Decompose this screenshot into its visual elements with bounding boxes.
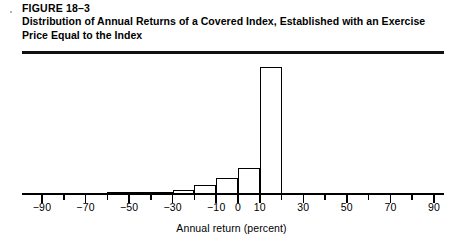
histogram-bar bbox=[216, 178, 238, 193]
x-axis-tick bbox=[107, 195, 109, 200]
x-axis-tick-label: 70 bbox=[384, 201, 396, 213]
histogram-bar bbox=[173, 190, 195, 193]
x-axis-tick bbox=[324, 195, 326, 200]
x-axis-tick-label: 30 bbox=[297, 201, 309, 213]
histogram-plot bbox=[0, 55, 463, 200]
histogram-bar bbox=[107, 192, 129, 194]
x-axis-tick-label: 0 bbox=[235, 201, 241, 213]
page-speck bbox=[10, 11, 12, 13]
histogram-bar bbox=[129, 192, 151, 194]
x-axis-tick-label: −70 bbox=[76, 201, 94, 213]
x-axis-tick-label: −10 bbox=[207, 201, 225, 213]
x-axis-tick-label: 50 bbox=[341, 201, 353, 213]
header-rule bbox=[22, 51, 444, 54]
x-axis-tick bbox=[281, 195, 283, 200]
histogram-bar bbox=[151, 192, 173, 194]
x-axis-title: Annual return (percent) bbox=[0, 222, 463, 234]
histogram-bar bbox=[238, 168, 260, 193]
x-axis-tick bbox=[63, 195, 65, 200]
histogram-bar bbox=[260, 67, 282, 193]
x-axis-tick-label: −30 bbox=[163, 201, 181, 213]
x-axis-tick-label: 10 bbox=[254, 201, 266, 213]
x-axis-tick bbox=[368, 195, 370, 200]
x-axis-tick bbox=[411, 195, 413, 200]
x-axis-tick-label: −90 bbox=[33, 201, 51, 213]
figure-number-label: FIGURE 18–3 bbox=[22, 2, 90, 14]
x-axis-tick-label: 90 bbox=[428, 201, 440, 213]
histogram-bar bbox=[194, 185, 216, 193]
x-axis-tick bbox=[150, 195, 152, 200]
figure-title: Distribution of Annual Returns of a Cove… bbox=[22, 15, 442, 42]
x-axis-tick-label: −50 bbox=[120, 201, 138, 213]
figure-container: FIGURE 18–3 Distribution of Annual Retur… bbox=[0, 0, 463, 243]
x-axis-tick bbox=[194, 195, 196, 200]
